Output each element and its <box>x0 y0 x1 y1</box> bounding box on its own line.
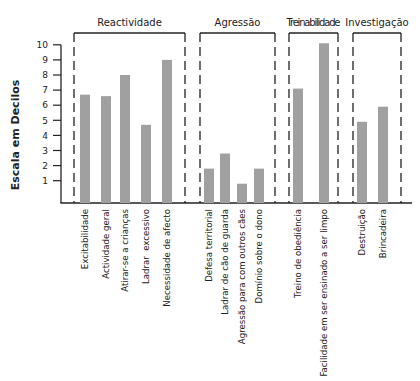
category-label: Domínio sobre o dono <box>254 209 264 303</box>
category-label: Atirar-se a crianças <box>120 208 130 291</box>
category-label: Defesa territorial <box>204 209 214 282</box>
bar <box>319 43 329 203</box>
category-label: Agressão para com outros cães <box>237 208 247 344</box>
y-tick-label: 6 <box>42 100 48 110</box>
y-tick-label: 10 <box>37 40 49 50</box>
category-label: Ladrar excessivo <box>141 209 151 284</box>
category-label: Destruição <box>357 209 367 255</box>
grouped-bar-chart: 12345678910 ReactividadeAgressãoTreinabi… <box>0 0 420 381</box>
bar <box>220 154 230 203</box>
y-axis-label: Escala em Decilos <box>9 79 22 190</box>
category-label: Actividade geral <box>101 209 111 279</box>
group-title: Reactividade <box>97 17 162 28</box>
category-label: Facilidade em ser ensinado a ser limpo <box>319 209 329 377</box>
group-title: Treinabilidade <box>286 17 341 28</box>
bar <box>162 60 172 203</box>
bar <box>254 169 264 203</box>
bar <box>101 96 111 203</box>
bar <box>237 184 247 203</box>
y-tick-label: 5 <box>42 116 48 126</box>
y-tick-label: 2 <box>42 161 48 171</box>
bar <box>141 125 151 203</box>
bar <box>80 95 90 203</box>
y-tick-label: 9 <box>42 55 48 65</box>
group-title: Agressão <box>215 17 261 28</box>
category-label: Treino de obediência <box>293 209 303 299</box>
y-tick-label: 4 <box>42 131 48 141</box>
category-label: Necessidade de afecto <box>162 209 172 307</box>
y-tick-label: 1 <box>42 176 48 186</box>
bar <box>293 89 303 203</box>
y-tick-label: 8 <box>42 70 48 80</box>
category-label: Brincadeira <box>378 209 388 258</box>
category-label: Excitabilidade <box>80 209 90 269</box>
category-label: Ladrar de cão de guarda <box>220 209 230 315</box>
bar <box>378 107 388 203</box>
bar <box>204 169 214 203</box>
y-tick-label: 7 <box>42 85 48 95</box>
bar <box>120 75 130 203</box>
y-tick-label: 3 <box>42 146 48 156</box>
bar <box>357 122 367 203</box>
group-title: Investigação <box>345 17 409 28</box>
